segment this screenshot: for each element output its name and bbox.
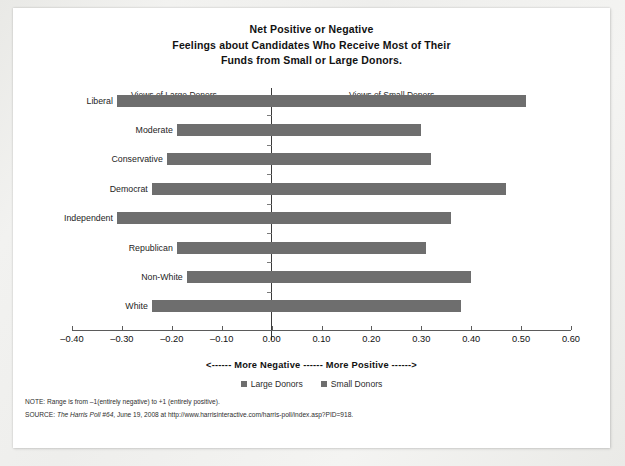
legend-label: Small Donors xyxy=(331,379,383,389)
x-axis-tick xyxy=(421,326,422,330)
note-text: Range is from –1(entirely negative) to +… xyxy=(47,398,220,405)
legend-item: Small Donors xyxy=(321,379,383,389)
x-axis-tick-label: 0.60 xyxy=(562,334,580,344)
x-axis-tick xyxy=(272,326,273,330)
source-publication: The Harris Poll #64 xyxy=(57,411,113,418)
y-axis-tick xyxy=(267,292,272,293)
x-axis-line xyxy=(72,330,571,331)
bar-non-white xyxy=(187,271,471,283)
x-axis-tick xyxy=(72,326,73,330)
bar-row: Conservative xyxy=(13,145,610,174)
bar-white xyxy=(152,300,461,312)
legend-item: Large Donors xyxy=(241,379,303,389)
source-line: SOURCE: The Harris Poll #64, June 19, 20… xyxy=(25,409,600,422)
bar-conservative xyxy=(167,153,431,165)
category-label: Conservative xyxy=(111,154,166,164)
chart-footnotes: NOTE: Range is from –1(entirely negative… xyxy=(25,396,600,421)
y-axis-tick xyxy=(267,204,272,205)
x-axis-tick-label: –0.40 xyxy=(60,334,83,344)
x-axis-tick xyxy=(371,326,372,330)
x-axis-tick xyxy=(471,326,472,330)
bar-moderate xyxy=(177,124,422,136)
x-axis-tick-label: 0.30 xyxy=(412,334,430,344)
bar-liberal xyxy=(117,95,526,107)
category-label: Moderate xyxy=(136,125,177,135)
page-background: Net Positive or Negative Feelings about … xyxy=(0,0,625,466)
x-axis-tick-label: 0.40 xyxy=(462,334,480,344)
chart-paper: Net Positive or Negative Feelings about … xyxy=(13,8,610,448)
category-label: Independent xyxy=(64,213,117,223)
x-axis-caption: <------ More Negative ------ More Positi… xyxy=(13,360,610,370)
bar-independent xyxy=(117,212,451,224)
x-axis-tick-label: 0.00 xyxy=(263,334,281,344)
bar-row: Republican xyxy=(13,233,610,262)
x-axis-tick-label: 0.10 xyxy=(312,334,330,344)
category-label: Democrat xyxy=(110,184,152,194)
y-axis-tick xyxy=(267,145,272,146)
chart-title: Net Positive or Negative Feelings about … xyxy=(13,22,610,69)
x-axis-tick-label: 0.50 xyxy=(512,334,530,344)
y-axis-tick xyxy=(267,262,272,263)
x-axis-tick xyxy=(172,326,173,330)
x-axis-tick xyxy=(122,326,123,330)
legend-swatch-icon xyxy=(321,381,327,387)
bar-republican xyxy=(177,242,427,254)
chart-title-line-3: Funds from Small or Large Donors. xyxy=(13,53,610,69)
chart-legend: Large DonorsSmall Donors xyxy=(13,379,610,389)
category-label: Non-White xyxy=(141,272,187,282)
source-prefix: SOURCE: xyxy=(25,411,57,418)
category-label: Liberal xyxy=(86,96,116,106)
bar-row: Non-White xyxy=(13,262,610,291)
note-line: NOTE: Range is from –1(entirely negative… xyxy=(25,396,600,409)
x-axis-tick xyxy=(322,326,323,330)
x-axis-tick-label: 0.20 xyxy=(362,334,380,344)
x-axis-tick-label: –0.20 xyxy=(160,334,183,344)
x-axis-tick xyxy=(222,326,223,330)
bar-row: Liberal xyxy=(13,86,610,115)
y-axis-tick xyxy=(267,233,272,234)
bar-row: White xyxy=(13,292,610,321)
bar-row: Independent xyxy=(13,204,610,233)
x-axis-tick-label: –0.30 xyxy=(110,334,133,344)
x-axis-tick xyxy=(521,326,522,330)
bar-democrat xyxy=(152,183,506,195)
legend-swatch-icon xyxy=(241,381,247,387)
note-prefix: NOTE: xyxy=(25,398,47,405)
bar-row: Democrat xyxy=(13,174,610,203)
x-axis-tick-label: –0.10 xyxy=(210,334,233,344)
y-axis-tick xyxy=(267,115,272,116)
source-rest: , June 19, 2008 at http://www.harrisinte… xyxy=(113,411,353,418)
chart-title-line-1: Net Positive or Negative xyxy=(13,22,610,38)
bar-row: Moderate xyxy=(13,115,610,144)
category-label: Republican xyxy=(129,243,177,253)
legend-label: Large Donors xyxy=(251,379,303,389)
category-label: White xyxy=(125,301,152,311)
plot-area: Views of Large Donors Views of Small Don… xyxy=(13,78,610,348)
y-axis-tick xyxy=(267,174,272,175)
x-axis-tick xyxy=(571,326,572,330)
chart-title-line-2: Feelings about Candidates Who Receive Mo… xyxy=(13,38,610,54)
